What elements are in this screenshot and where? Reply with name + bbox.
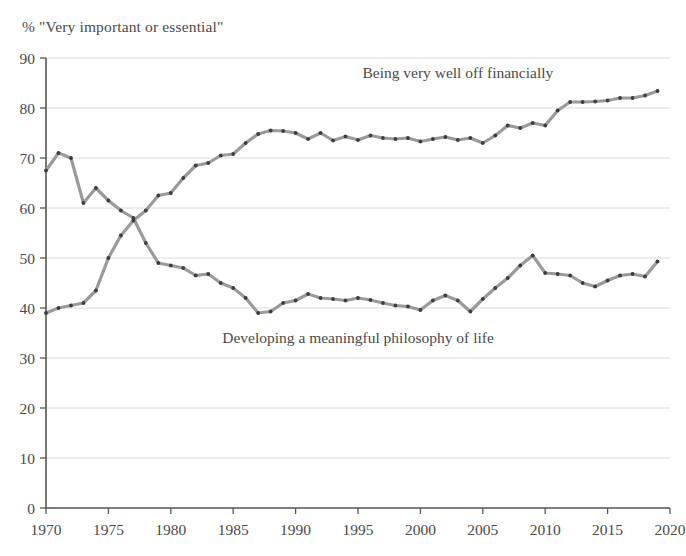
data-point bbox=[568, 274, 572, 278]
data-point bbox=[481, 297, 485, 301]
gridlines bbox=[46, 58, 670, 458]
data-point bbox=[356, 296, 360, 300]
data-point bbox=[431, 137, 435, 141]
data-point bbox=[456, 299, 460, 303]
data-point bbox=[468, 136, 472, 140]
x-tick-label-1995: 1995 bbox=[343, 521, 374, 538]
data-point bbox=[419, 140, 423, 144]
data-point bbox=[369, 134, 373, 138]
data-point bbox=[94, 186, 98, 190]
data-point bbox=[231, 152, 235, 156]
data-point bbox=[231, 286, 235, 290]
data-point bbox=[119, 209, 123, 213]
data-point bbox=[306, 137, 310, 141]
data-point bbox=[656, 89, 660, 93]
data-point bbox=[443, 294, 447, 298]
series-label-1: Developing a meaningful philosophy of li… bbox=[222, 329, 494, 346]
data-point bbox=[144, 209, 148, 213]
data-point bbox=[206, 161, 210, 165]
data-point bbox=[107, 199, 111, 203]
data-point bbox=[518, 264, 522, 268]
data-point bbox=[269, 310, 273, 314]
data-point bbox=[94, 289, 98, 293]
data-point bbox=[269, 129, 273, 133]
x-tick-label-1975: 1975 bbox=[93, 521, 124, 538]
data-point bbox=[406, 136, 410, 140]
series-markers bbox=[44, 89, 659, 315]
data-point bbox=[543, 124, 547, 128]
x-tick-label-2020: 2020 bbox=[655, 521, 686, 538]
data-point bbox=[456, 138, 460, 142]
y-tick-labels: 0102030405060708090 bbox=[20, 50, 36, 517]
data-point bbox=[44, 169, 48, 173]
data-point bbox=[606, 99, 610, 103]
y-tick-label-70: 70 bbox=[20, 150, 36, 167]
data-point bbox=[394, 137, 398, 141]
data-point bbox=[431, 299, 435, 303]
data-point bbox=[244, 296, 248, 300]
data-point bbox=[443, 135, 447, 139]
data-point bbox=[281, 301, 285, 305]
axes bbox=[40, 58, 670, 514]
data-point bbox=[556, 272, 560, 276]
data-point bbox=[581, 281, 585, 285]
data-point bbox=[181, 176, 185, 180]
data-point bbox=[294, 299, 298, 303]
chart-container: % "Very important or essential" 01020304… bbox=[0, 0, 686, 556]
data-point bbox=[181, 266, 185, 270]
data-point bbox=[344, 299, 348, 303]
data-point bbox=[82, 301, 86, 305]
data-point bbox=[169, 191, 173, 195]
series-line-0 bbox=[46, 91, 658, 313]
data-point bbox=[69, 156, 73, 160]
data-point bbox=[119, 234, 123, 238]
data-point bbox=[631, 96, 635, 100]
x-tick-label-1985: 1985 bbox=[218, 521, 249, 538]
y-tick-label-0: 0 bbox=[27, 500, 35, 517]
data-point bbox=[344, 135, 348, 139]
data-point bbox=[419, 308, 423, 312]
data-point bbox=[107, 256, 111, 260]
y-tick-label-90: 90 bbox=[20, 50, 36, 67]
data-point bbox=[493, 286, 497, 290]
data-point bbox=[406, 305, 410, 309]
data-point bbox=[369, 298, 373, 302]
series-line-1 bbox=[46, 153, 658, 313]
x-tick-label-1980: 1980 bbox=[155, 521, 186, 538]
data-point bbox=[381, 136, 385, 140]
data-point bbox=[319, 131, 323, 135]
data-point bbox=[543, 271, 547, 275]
x-tick-labels: 1970197519801985199019952000200520102015… bbox=[31, 521, 686, 538]
data-point bbox=[518, 126, 522, 130]
data-point bbox=[256, 311, 260, 315]
data-point bbox=[531, 121, 535, 125]
data-point bbox=[556, 109, 560, 113]
x-tick-label-2010: 2010 bbox=[530, 521, 561, 538]
data-point bbox=[568, 100, 572, 104]
data-point bbox=[618, 96, 622, 100]
data-point bbox=[506, 276, 510, 280]
data-point bbox=[156, 261, 160, 265]
data-point bbox=[144, 241, 148, 245]
data-point bbox=[44, 311, 48, 315]
data-point bbox=[643, 275, 647, 279]
data-point bbox=[481, 141, 485, 145]
y-tick-label-80: 80 bbox=[20, 100, 36, 117]
data-point bbox=[643, 94, 647, 98]
data-point bbox=[506, 124, 510, 128]
data-point bbox=[331, 297, 335, 301]
x-tick-label-2000: 2000 bbox=[405, 521, 436, 538]
data-point bbox=[194, 274, 198, 278]
data-point bbox=[381, 301, 385, 305]
data-point bbox=[468, 310, 472, 314]
data-point bbox=[82, 201, 86, 205]
y-tick-label-30: 30 bbox=[20, 350, 36, 367]
x-tick-label-2005: 2005 bbox=[467, 521, 498, 538]
data-point bbox=[631, 272, 635, 276]
y-tick-label-20: 20 bbox=[20, 400, 36, 417]
data-point bbox=[531, 254, 535, 258]
data-point bbox=[319, 296, 323, 300]
x-tick-label-2015: 2015 bbox=[592, 521, 623, 538]
data-point bbox=[294, 131, 298, 135]
data-point bbox=[169, 264, 173, 268]
